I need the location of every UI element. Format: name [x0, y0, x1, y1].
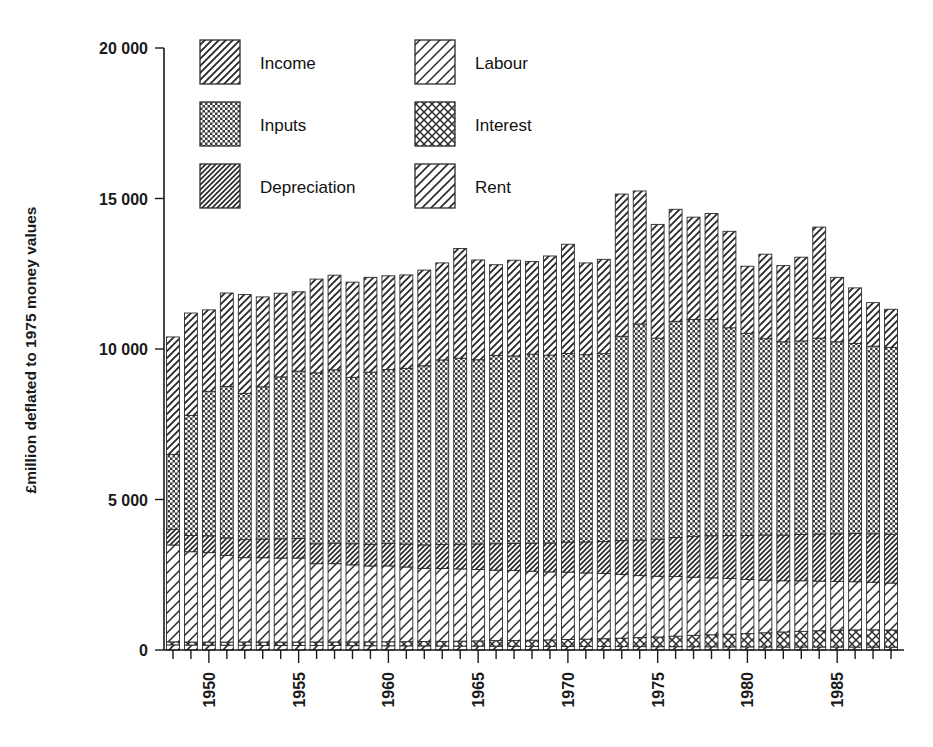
bar-segment-inputs	[454, 358, 467, 544]
bar-segment-interest	[597, 639, 610, 647]
bar-segment-interest	[777, 632, 790, 647]
bar-segment-income	[633, 191, 646, 324]
bar-stack	[651, 224, 664, 650]
bar-segment-depreciation	[543, 543, 556, 572]
bar-segment-depreciation	[454, 544, 467, 569]
bar-segment-interest	[687, 635, 700, 646]
bar-segment-income	[184, 313, 197, 415]
stacked-bar-chart: 05 00010 00015 00020 0001950195519601965…	[0, 0, 933, 747]
bar-segment-inputs	[705, 320, 718, 536]
bar-segment-income	[759, 254, 772, 339]
bar-segment-income	[364, 277, 377, 372]
bar-segment-interest	[328, 642, 341, 646]
bar-stack	[669, 209, 682, 650]
bar-segment-labour	[490, 570, 503, 640]
bar-stack	[633, 191, 646, 650]
bar-segment-depreciation	[202, 536, 215, 553]
bar-segment-inputs	[831, 342, 844, 534]
legend-swatch-depreciation	[200, 164, 240, 208]
bar-segment-depreciation	[382, 544, 395, 566]
bar-stack	[328, 275, 341, 650]
bar-segment-labour	[849, 582, 862, 630]
bar-segment-depreciation	[633, 540, 646, 576]
bar-segment-income	[472, 260, 485, 360]
bar-segment-inputs	[741, 333, 754, 535]
bar-segment-inputs	[867, 346, 880, 534]
bar-segment-labour	[364, 566, 377, 642]
bar-segment-interest	[741, 634, 754, 647]
bar-segment-income	[436, 263, 449, 360]
bar-segment-income	[238, 295, 251, 394]
x-axis-tick-label: 1970	[560, 672, 577, 708]
bar-segment-interest	[813, 631, 826, 647]
bar-segment-interest	[831, 630, 844, 647]
bar-segment-income	[561, 244, 574, 353]
bar-segment-income	[831, 277, 844, 341]
bar-segment-interest	[436, 641, 449, 646]
bar-segment-inputs	[633, 324, 646, 540]
bar-stack	[167, 337, 180, 650]
bar-segment-labour	[418, 568, 431, 641]
bar-stack	[723, 231, 736, 650]
legend-label: Depreciation	[260, 178, 355, 197]
bar-stack	[777, 266, 790, 650]
bar-segment-income	[346, 282, 359, 377]
bar-segment-income	[813, 227, 826, 338]
bar-segment-interest	[418, 641, 431, 645]
x-axis-tick-label: 1980	[739, 672, 756, 708]
bar-segment-income	[454, 248, 467, 358]
bar-segment-income	[256, 297, 269, 387]
bar-segment-labour	[669, 577, 682, 637]
bar-segment-income	[651, 224, 664, 338]
bar-segment-income	[400, 275, 413, 368]
bar-segment-depreciation	[705, 536, 718, 578]
legend-swatch-inputs	[200, 102, 240, 146]
bar-segment-inputs	[885, 347, 898, 534]
bar-segment-interest	[651, 637, 664, 647]
bar-segment-interest	[167, 642, 180, 645]
bar-segment-income	[418, 270, 431, 366]
bar-stack	[346, 282, 359, 650]
bar-segment-inputs	[310, 373, 323, 544]
bar-segment-interest	[400, 642, 413, 646]
bar-segment-inputs	[669, 321, 682, 537]
bar-stack	[274, 293, 287, 650]
bar-segment-inputs	[184, 415, 197, 535]
bar-segment-labour	[310, 564, 323, 642]
bar-stack	[292, 292, 305, 650]
bar-stack	[561, 244, 574, 650]
bar-segment-inputs	[777, 342, 790, 535]
bar-segment-depreciation	[364, 544, 377, 566]
bar-segment-labour	[400, 567, 413, 642]
bar-segment-interest	[292, 642, 305, 645]
bar-segment-depreciation	[292, 538, 305, 558]
bar-segment-depreciation	[723, 535, 736, 578]
bar-segment-labour	[813, 581, 826, 631]
bar-segment-inputs	[292, 371, 305, 538]
bar-segment-labour	[723, 579, 736, 635]
bar-segment-depreciation	[615, 541, 628, 575]
bar-stack	[256, 297, 269, 650]
bar-segment-depreciation	[831, 534, 844, 582]
y-axis-tick-label: 10 000	[99, 341, 148, 358]
bar-segment-interest	[723, 634, 736, 647]
bar-stack	[436, 263, 449, 650]
bar-segment-depreciation	[256, 539, 269, 558]
bar-segment-interest	[454, 641, 467, 646]
bar-segment-interest	[382, 642, 395, 646]
bar-segment-interest	[310, 642, 323, 646]
bar-segment-income	[292, 292, 305, 371]
bar-segment-interest	[364, 642, 377, 646]
bar-segment-labour	[615, 574, 628, 638]
bar-segment-inputs	[382, 370, 395, 544]
bar-segment-inputs	[849, 343, 862, 533]
bar-segment-inputs	[220, 386, 233, 537]
bar-segment-labour	[256, 558, 269, 642]
legend-swatch-rent	[415, 164, 455, 208]
bar-stack	[508, 260, 521, 650]
bar-stack	[238, 295, 251, 650]
bar-segment-depreciation	[220, 538, 233, 555]
bar-segment-labour	[436, 569, 449, 642]
bar-segment-inputs	[723, 328, 736, 536]
x-axis-tick-label: 1965	[470, 672, 487, 708]
